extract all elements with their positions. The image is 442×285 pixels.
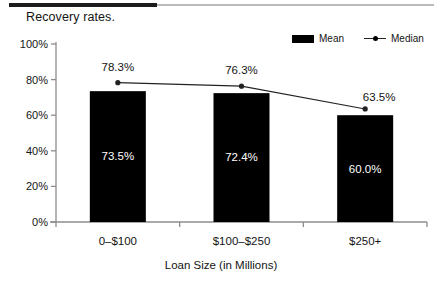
x-axis-tick-label: $100–$250 [213,235,271,247]
y-axis-tick-label: 100% [4,38,48,50]
x-axis-tick-label: $250+ [349,235,381,247]
bar-value-label: 73.5% [102,150,135,162]
median-data-point [115,80,120,85]
median-value-label: 63.5% [363,91,396,103]
median-value-label: 76.3% [225,64,258,76]
chart-canvas: Recovery rates. Mean Median 0%20%40%60%8… [0,0,442,285]
median-value-label: 78.3% [102,61,135,73]
median-data-point [239,84,244,89]
x-axis-title: Loan Size (in Millions) [0,259,442,271]
bar-value-label: 72.4% [225,151,258,163]
plot-area: 0%20%40%60%80%100%73.5%72.4%60.0%78.3%76… [0,0,442,285]
y-axis-tick-label: 40% [4,145,48,157]
y-axis-tick-label: 0% [4,216,48,228]
y-axis-tick-label: 60% [4,109,48,121]
x-axis-tick-label: 0–$100 [99,235,137,247]
y-axis-tick-label: 80% [4,74,48,86]
median-data-point [363,106,368,111]
y-axis-tick-label: 20% [4,180,48,192]
bar-value-label: 60.0% [349,163,382,175]
